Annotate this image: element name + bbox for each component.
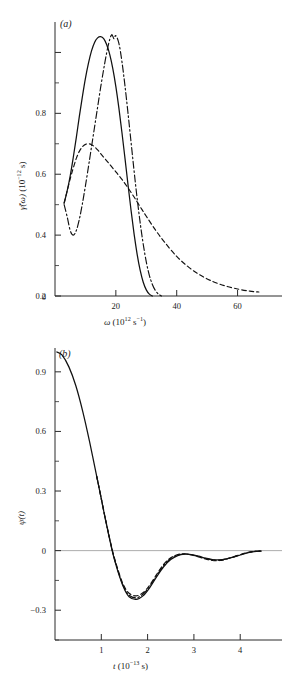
- panel-a-plot: 0.20.40.60.82040600: [0, 0, 292, 340]
- series-curve-dashed: [64, 144, 259, 292]
- panel-b-xaxis-units-open: (10: [118, 661, 130, 671]
- panel-b-xaxis-title: t (10−13 s): [113, 660, 148, 671]
- series-curve-dashed: [97, 476, 261, 596]
- panel-b-label: (b): [59, 348, 71, 359]
- x-tick-label: 3: [192, 645, 196, 655]
- panel-a-yaxis-units-tail: s): [17, 162, 27, 171]
- y-tick-label: −0.3: [31, 605, 46, 615]
- x-tick-label: 20: [112, 301, 121, 311]
- panel-a-xaxis-symbol: ω: [104, 317, 110, 327]
- panel-b-plot: 0.90.60.30−0.31234: [0, 340, 292, 683]
- y-tick-label: 0.4: [35, 230, 46, 240]
- series-curve-dashdot: [97, 476, 261, 598]
- figure-container: 0.20.40.60.82040600 (a) ω (1012 s−1) γ̃(…: [0, 0, 292, 683]
- panel-a-xaxis-title: ω (1012 s−1): [104, 316, 146, 327]
- y-tick-label: 0.6: [35, 426, 46, 436]
- origin-label: 0: [42, 292, 46, 302]
- y-tick-label: 0.6: [35, 169, 46, 179]
- series-curve-solid: [64, 37, 152, 296]
- y-tick-label: 0: [42, 546, 46, 556]
- panel-b-xaxis-symbol: t: [113, 661, 116, 671]
- panel-b-yaxis-symbol: ψ(t): [16, 511, 26, 525]
- panel-a-yaxis-units-open: (10: [17, 180, 27, 192]
- y-tick-label: 0.8: [35, 108, 46, 118]
- panel-a-yaxis-symbol: γ̃(ω): [17, 194, 27, 210]
- panel-a-xaxis-units-open: (10: [113, 317, 125, 327]
- x-tick-label: 60: [233, 301, 242, 311]
- panel-b-xaxis-units-tail: s): [139, 661, 148, 671]
- panel-b-yaxis-title: ψ(t): [16, 511, 26, 525]
- x-tick-label: 1: [99, 645, 103, 655]
- panel-a: 0.20.40.60.82040600 (a) ω (1012 s−1) γ̃(…: [0, 0, 292, 340]
- y-tick-label: 0.9: [35, 367, 46, 377]
- x-tick-label: 40: [172, 301, 181, 311]
- panel-b-xaxis-exp: −13: [130, 660, 140, 666]
- y-tick-label: 0.3: [35, 486, 46, 496]
- series-curve-dashdot: [64, 35, 161, 296]
- panel-a-label: (a): [60, 18, 72, 29]
- panel-a-yaxis-title: γ̃(ω) (10−12 s): [16, 162, 27, 210]
- panel-a-xaxis-close: ): [143, 317, 146, 327]
- panel-a-yaxis-exp: −12: [16, 170, 22, 180]
- x-tick-label: 2: [145, 645, 149, 655]
- panel-b: 0.90.60.30−0.31234 (b) t (10−13 s) ψ(t): [0, 340, 292, 683]
- x-tick-label: 4: [238, 645, 243, 655]
- series-curve-solid: [57, 352, 261, 600]
